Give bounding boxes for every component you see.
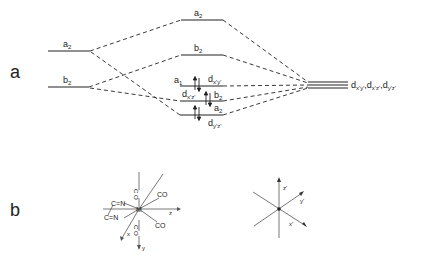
- right-degenerate-levels: [308, 82, 348, 88]
- ligand-co-top: C O: [133, 189, 139, 200]
- ligand-co-upper-right: CO: [157, 191, 168, 198]
- molecule-structure: C O CO CO C O C=N C=N M z x y: [103, 172, 181, 251]
- axis-y-prime-label: y': [300, 198, 304, 204]
- mid-a2-lower-label: a2: [214, 103, 223, 114]
- right-orbital-label: dx'y',dx'z',dy'z': [351, 80, 396, 91]
- mid-dxy-label: dx'y': [208, 74, 221, 85]
- left-levels: a2 b2: [48, 39, 90, 87]
- mid-b2-lower-label: b2: [214, 90, 223, 101]
- ligand-co-lower-right: CO: [155, 222, 166, 229]
- axis-z-label: z: [169, 210, 172, 216]
- mid-dyz-label: dy'z': [208, 118, 221, 129]
- axis-y-label: y: [142, 245, 145, 251]
- mid-a1-label: a1: [174, 75, 183, 86]
- primed-axes-frame: z' y' x': [253, 177, 307, 238]
- axis-z-prime-label: z': [283, 185, 287, 191]
- metal-center: M: [136, 206, 142, 213]
- ligand-cn-lower: C=N: [104, 214, 118, 221]
- panel-label-a: a: [10, 62, 21, 82]
- ligand-cn-upper: C=N: [111, 200, 125, 207]
- electron-pair-a1: [193, 77, 200, 92]
- mid-b2-upper-label: b2: [194, 43, 203, 54]
- left-b2-label: b2: [63, 75, 72, 86]
- middle-levels: a2 b2 a1 dx'y' dx'z' b2 a2 dy'z': [174, 8, 223, 129]
- electron-pair-b2: [204, 92, 211, 107]
- ligand-co-bottom: C O: [133, 225, 139, 236]
- mid-a2-top-label: a2: [194, 8, 203, 19]
- electron-pair-a2: [193, 106, 200, 121]
- mid-dxz-label: dx'z': [182, 89, 195, 100]
- mo-diagram: a b a2 b2 a2 b2 a1 dx'y' dx'z' b2: [0, 0, 431, 259]
- axis-x-prime-label: x': [289, 221, 293, 227]
- left-a2-label: a2: [63, 39, 72, 50]
- panel-label-b: b: [10, 200, 20, 220]
- axis-x-label: x: [127, 231, 130, 237]
